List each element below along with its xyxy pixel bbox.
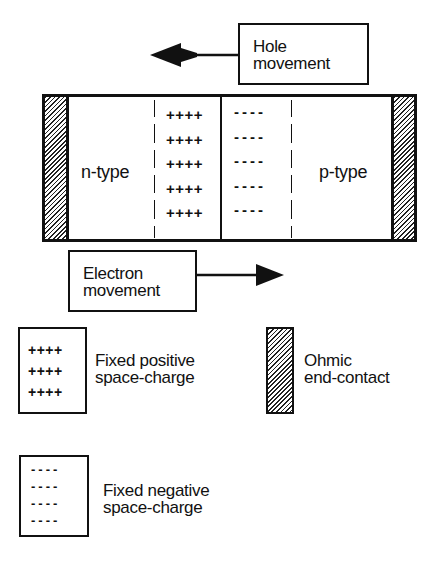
legend-positive-symbols: ++++ ++++ ++++ <box>28 340 63 403</box>
legend-ohmic-swatch <box>266 327 294 414</box>
minus-row: ---- <box>31 461 60 478</box>
legend-negative-symbols: ---- ---- ---- ---- <box>31 461 60 529</box>
plus-row: ++++ <box>28 340 63 361</box>
minus-row: ---- <box>31 478 60 495</box>
minus-row: ---- <box>31 512 60 529</box>
minus-row: ---- <box>31 495 60 512</box>
legend-positive-label-line2: space-charge <box>95 369 194 386</box>
legend-ohmic-label-line2: end-contact <box>304 369 390 386</box>
plus-row: ++++ <box>28 361 63 382</box>
plus-row: ++++ <box>28 382 63 403</box>
legend-ohmic-label-line1: Ohmic <box>304 352 352 369</box>
legend-negative-label-line2: space-charge <box>103 499 202 516</box>
legend-negative-label-line1: Fixed negative <box>103 482 209 499</box>
legend-positive-label-line1: Fixed positive <box>95 352 195 369</box>
